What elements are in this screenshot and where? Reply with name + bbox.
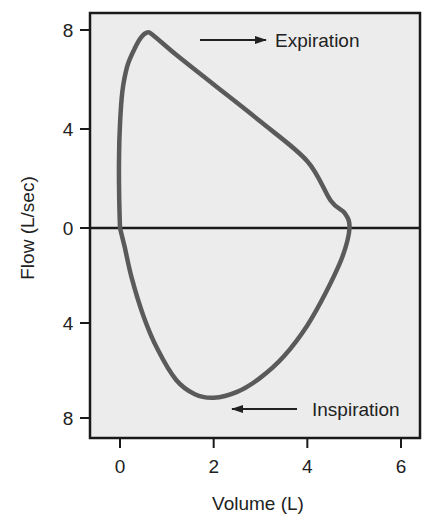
x-tick-label: 0: [115, 456, 126, 477]
y-tick-label: 8: [63, 20, 74, 41]
y-tick-label: 0: [63, 218, 74, 239]
y-tick-label: 4: [63, 119, 74, 140]
y-axis-title: Flow (L/sec): [17, 176, 38, 279]
y-tick-label: 8: [63, 408, 74, 429]
y-axis-ticks: 84048: [63, 20, 90, 429]
flow-volume-chart: 84048 0246 ExpirationInspiration Volume …: [0, 0, 432, 526]
x-axis-title: Volume (L): [212, 493, 304, 514]
x-axis-ticks: 0246: [115, 438, 407, 477]
x-tick-label: 4: [302, 456, 313, 477]
x-tick-label: 6: [396, 456, 407, 477]
plot-area: [90, 13, 420, 438]
x-tick-label: 2: [208, 456, 219, 477]
y-tick-label: 4: [63, 313, 74, 334]
expiration-label: Expiration: [275, 30, 360, 51]
inspiration-label: Inspiration: [312, 399, 400, 420]
